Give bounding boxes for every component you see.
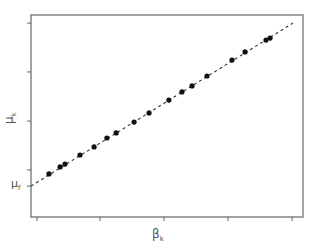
y-axis-label-subscript: k xyxy=(10,112,18,116)
data-point xyxy=(46,171,51,176)
chart-svg xyxy=(0,0,318,249)
y-annotation-subscript: f xyxy=(18,184,20,192)
x-axis-ticks xyxy=(37,217,292,221)
data-point xyxy=(166,97,171,102)
x-axis-label-subscript: k xyxy=(160,235,164,243)
y-annotation-label: μf xyxy=(11,177,20,192)
data-point xyxy=(229,57,234,62)
data-point xyxy=(131,119,136,124)
data-point xyxy=(189,83,194,88)
fit-line xyxy=(31,23,293,186)
fit-line-path xyxy=(31,23,293,186)
data-point xyxy=(267,35,272,40)
y-axis-label: μk xyxy=(2,112,18,124)
data-point xyxy=(204,73,209,78)
data-point xyxy=(62,161,67,166)
x-axis-label: βk xyxy=(152,227,164,243)
y-annotation-symbol: μ xyxy=(11,177,18,190)
y-axis-label-symbol: μ xyxy=(2,116,16,124)
plot-frame xyxy=(31,15,303,217)
plot-border xyxy=(31,15,303,217)
data-point xyxy=(114,130,119,135)
data-point xyxy=(58,164,63,169)
data-point xyxy=(179,89,184,94)
data-point xyxy=(104,135,109,140)
data-point xyxy=(77,152,82,157)
data-point xyxy=(242,49,247,54)
data-point xyxy=(92,144,97,149)
x-axis-label-symbol: β xyxy=(152,227,160,241)
data-point xyxy=(146,110,151,115)
